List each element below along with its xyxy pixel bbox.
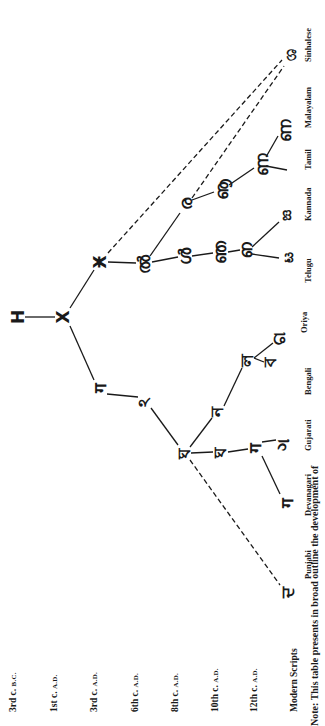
period-era: 1st c. [49, 689, 59, 712]
script-glyph-bengali-12ad: ল [239, 354, 256, 367]
period-suffix: A.D. [212, 668, 220, 682]
lineage-line [229, 168, 254, 185]
script-glyph-kannada-modern: ಙ [277, 210, 294, 221]
period-suffix: A.D. [132, 673, 140, 687]
period-era: 3rd c. [8, 686, 18, 712]
script-glyph-north-6ad: ঽ [136, 398, 153, 407]
period-suffix: A.D. [172, 673, 180, 687]
script-evolution-diagram: HXӾൽൾഞഩಟಙരൡണണශगঽঘঘगगગনলবଗਦ 3rd c. B.C.1s… [0, 0, 325, 726]
lineage-line [262, 456, 280, 494]
script-glyph-brahmi-3bc: H [10, 310, 27, 324]
period-label: 8th c. A.D. [170, 673, 180, 712]
script-glyph-malayalam-modern: ണ [277, 119, 294, 142]
script-glyph-siddham-8ad: ঘ [176, 448, 193, 459]
script-glyph-bengali-10ad: ন [209, 407, 226, 417]
lineage-line [224, 368, 242, 406]
script-glyph-oriya-modern: ଗ [271, 332, 288, 345]
period-era: 10th c. [210, 683, 220, 712]
script-label-gujarati: Gujarati [303, 419, 313, 451]
script-glyph-gujarati-modern: ગ [275, 439, 292, 451]
script-glyph-tamil-grantha-8ad: ര [178, 198, 195, 210]
script-glyph-north-3ad: ग [92, 383, 109, 393]
period-suffix: A.D. [51, 675, 59, 689]
script-glyph-telugu-10ad: ഞ [212, 241, 229, 264]
script-glyph-telugu-12ad: ഩ [238, 242, 255, 258]
period-era: 6th c. [130, 687, 140, 712]
period-label: 1st c. A.D. [49, 675, 59, 712]
script-glyph-devanagari-modern: ग [279, 498, 296, 508]
script-glyph-south-6ad: ൽ [136, 255, 153, 274]
dashed-lineage-line [190, 460, 280, 585]
period-label: 6th c. A.D. [130, 673, 140, 712]
script-glyph-tamil-10ad: ൡ [214, 179, 231, 200]
script-label-malayalam: Malayalam [303, 87, 313, 128]
script-glyph-telugu-8ad: ൾ [177, 248, 194, 265]
script-glyph-telugu-modern: ಟ [279, 252, 296, 263]
script-label-kannada: Kannada [303, 187, 313, 221]
script-label-sinhalese: Sinhalese [303, 28, 313, 62]
script-glyph-south-3ad: Ӿ [92, 255, 109, 268]
script-glyph-nagari-12ad: ग [247, 443, 264, 453]
period-era: 3rd c. [89, 686, 99, 712]
lineage-line [70, 270, 94, 308]
period-era: 8th c. [170, 687, 180, 712]
modern-scripts-label: Modern Scripts [289, 648, 299, 712]
script-glyph-punjabi-modern: ਦ [279, 587, 296, 598]
footnote: Note: This table presents in broad outli… [309, 466, 320, 726]
period-label: 12th c. A.D. [249, 668, 259, 712]
lineage-line [252, 222, 279, 247]
period-suffix: B.C. [10, 672, 18, 686]
lineage-line [190, 418, 212, 447]
lineage-line [108, 262, 136, 263]
script-label-oriya: Oriya [299, 312, 309, 333]
period-suffix: A.D. [91, 672, 99, 686]
period-era: 12th c. [249, 683, 259, 712]
lineage-line [151, 408, 178, 445]
script-glyph-brahmi-1ad: X [55, 310, 72, 323]
script-glyph-nagari-10ad: ঘ [212, 447, 229, 458]
script-label-tamil: Tamil [303, 149, 313, 170]
script-label-telugu: Telugu [303, 258, 313, 283]
script-glyph-sinhalese-modern: ශ [282, 49, 299, 61]
script-glyph-bengali-modern: ব [262, 358, 279, 367]
period-label: 10th c. A.D. [210, 668, 220, 712]
period-suffix: A.D. [251, 668, 259, 682]
period-label: 3rd c. B.C. [8, 672, 18, 712]
lineage-line [70, 326, 94, 380]
period-label: 3rd c. A.D. [89, 672, 99, 712]
lineage-line [254, 343, 273, 358]
lineage-line [252, 254, 279, 258]
script-glyph-tamil-12ad: ണ [254, 153, 271, 176]
script-label-bengali: Bengali [303, 368, 313, 395]
